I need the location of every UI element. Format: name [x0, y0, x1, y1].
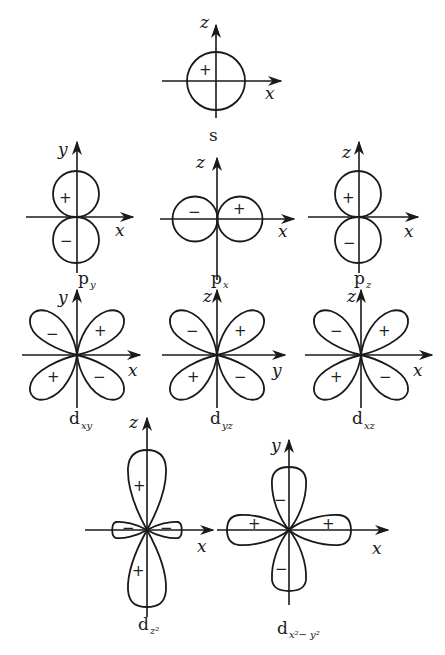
orbital-label-py: py: [78, 268, 96, 290]
sign-minus: −: [188, 203, 201, 221]
z-axis-label: z: [199, 12, 210, 32]
sign-plus: +: [248, 515, 261, 533]
x-axis-label: x: [372, 538, 382, 558]
sign-plus: +: [133, 477, 146, 495]
sign-plus: +: [378, 322, 391, 340]
orbital-diagram: z x + s y x + − py z x − + px z x + −: [0, 0, 445, 655]
orbital-label-dxz: dxz: [352, 408, 376, 431]
orbital-label-dxy: dxy: [69, 408, 93, 431]
sign-minus: −: [330, 322, 343, 340]
orbital-dz2: z x + − − + dz²: [85, 412, 213, 636]
x-axis-label: x: [115, 220, 125, 240]
z-axis-label: z: [195, 152, 206, 172]
orbital-label-px: px: [211, 268, 229, 290]
sign-plus: +: [233, 200, 246, 218]
pz-lower-lobe: [335, 217, 381, 263]
orbital-label-dx2y2: dx²− y²: [277, 618, 320, 640]
sign-plus: +: [47, 368, 60, 386]
orbital-label-pz: pz: [354, 268, 372, 290]
orbital-pz: z x + − pz: [308, 142, 418, 290]
y-axis-label: y: [57, 287, 68, 307]
sign-plus: +: [330, 368, 343, 386]
orbital-s: z x + s: [162, 12, 281, 145]
sign-minus: −: [93, 368, 106, 386]
y-axis-label: y: [271, 360, 282, 380]
x-axis-label: x: [265, 83, 275, 103]
orbital-px: z x − + px: [160, 152, 294, 290]
x-axis-label: x: [128, 360, 138, 380]
sign-minus: −: [46, 325, 59, 343]
x-axis-label: x: [413, 360, 423, 380]
sign-minus: −: [122, 519, 135, 537]
sign-plus: +: [342, 189, 355, 207]
z-axis-label: z: [202, 286, 213, 306]
sign-plus: +: [234, 322, 247, 340]
sign-minus: −: [379, 368, 392, 386]
orbital-dxy: y x − + + − dxy: [22, 287, 140, 431]
sign-minus: −: [60, 232, 73, 250]
z-axis-label: z: [346, 286, 357, 306]
orbital-dxz: z x − + + − dxz: [305, 286, 432, 431]
orbital-dyz: z y − + + − dyz: [162, 286, 285, 431]
y-axis-label: y: [57, 139, 68, 159]
sign-plus: +: [322, 515, 335, 533]
orbital-label-s: s: [209, 125, 218, 145]
sign-plus: +: [132, 562, 145, 580]
orbital-dx2y2: y x − + + − dx²− y²: [217, 435, 388, 640]
x-axis-label: x: [278, 221, 288, 241]
sign-minus: −: [186, 322, 199, 340]
sign-minus: −: [234, 368, 247, 386]
sign-minus: −: [343, 234, 356, 252]
sign-minus: −: [275, 560, 288, 578]
x-axis-label: x: [404, 221, 414, 241]
y-axis-label: y: [270, 435, 281, 455]
sign-plus: +: [94, 322, 107, 340]
z-axis-label: z: [128, 412, 139, 432]
x-axis-label: x: [197, 536, 207, 556]
sign-minus: −: [274, 491, 287, 509]
orbital-py: y x + − py: [26, 139, 133, 290]
orbital-label-dyz: dyz: [210, 408, 234, 431]
orbital-label-dz2: dz²: [138, 614, 159, 636]
z-axis-label: z: [341, 142, 352, 162]
sign-plus: +: [59, 189, 72, 207]
sign-plus: +: [187, 368, 200, 386]
sign-minus: −: [160, 519, 173, 537]
sign-plus: +: [199, 61, 212, 79]
